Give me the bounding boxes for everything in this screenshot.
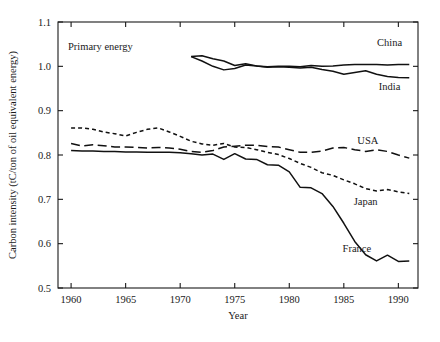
y-tick-label-1.1: 1.1 (38, 17, 51, 28)
series-label-china: China (377, 37, 402, 48)
x-tick-label-1975: 1975 (224, 294, 245, 305)
x-tick-label-1985: 1985 (333, 294, 354, 305)
series-label-japan: Japan (354, 196, 379, 207)
x-axis-title: Year (228, 310, 248, 321)
y-tick-label-0.7: 0.7 (38, 194, 51, 205)
series-label-india: India (379, 81, 401, 92)
y-tick-label-0.8: 0.8 (38, 150, 51, 161)
primary-energy-annotation: Primary energy (68, 41, 134, 52)
x-axis-tick-labels: 1960196519701975198019851990 (61, 294, 409, 305)
y-tick-label-0.6: 0.6 (38, 238, 51, 249)
x-tick-label-1980: 1980 (279, 294, 300, 305)
chart-container: 1960196519701975198019851990 0.50.60.70.… (0, 0, 440, 342)
x-tick-label-1960: 1960 (61, 294, 82, 305)
y-tick-label-0.9: 0.9 (38, 105, 51, 116)
y-tick-label-0.5: 0.5 (38, 283, 51, 294)
y-axis-title: Carbon intensity (tC/ton of oil equivale… (7, 50, 19, 259)
y-axis-tick-labels: 0.50.60.70.80.91.01.1 (38, 17, 51, 294)
series-lines (71, 56, 409, 262)
series-label-usa: USA (357, 135, 378, 146)
x-tick-label-1970: 1970 (170, 294, 191, 305)
carbon-intensity-line-chart: 1960196519701975198019851990 0.50.60.70.… (0, 0, 440, 342)
series-line-china (191, 56, 409, 67)
x-tick-label-1990: 1990 (388, 294, 409, 305)
x-tick-label-1965: 1965 (115, 294, 136, 305)
series-label-france: France (343, 243, 372, 254)
y-tick-label-1.0: 1.0 (38, 61, 51, 72)
series-name-labels: ChinaIndiaUSAJapanFrance (343, 37, 403, 254)
